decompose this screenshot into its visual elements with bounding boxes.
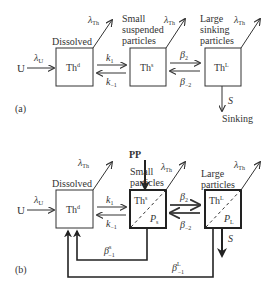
lambda-th-label: λTh [160,161,172,173]
th-d-symbol: Thd [66,62,80,73]
pl-symbol: PL [223,213,234,225]
k1-label: k1 [106,52,113,64]
k-1-label: k−1 [106,76,117,88]
beta-2-label: β−2 [179,219,191,231]
beta2-label: β2 [179,191,188,203]
uranium-label: U [17,62,25,74]
panel-b-label: (b) [15,264,27,276]
beta-l-1-label: βL−1 [171,261,184,275]
lambda-th-label: λTh [163,14,175,26]
th-d-symbol: Thd [66,204,80,215]
th-s-symbol: Ths [134,195,148,206]
sinking-symbol: S [228,95,233,106]
pp-label: PP [129,149,141,160]
ps-symbol: Ps [149,213,159,225]
beta2-label: β2 [179,49,188,61]
th-l-symbol: ThL [209,195,224,206]
lambda-th-label: λTh [233,14,245,26]
beta-l-1-feedback-arrow [68,228,213,277]
large-heading-line2: sinking [200,24,229,35]
small-heading-line3: particles [122,35,156,46]
large-heading-line1: Large [201,168,225,179]
lambda-u-label: λU [33,52,43,65]
small-heading-line1: Small [130,166,154,177]
decay-arrow-dissolved [93,162,112,190]
th-s-symbol: Ths [140,62,154,73]
lambda-th-label: λTh [233,159,245,171]
beta-s-1-label: βs−1 [103,244,115,258]
beta-2-label: β−2 [179,76,191,88]
large-heading-line2: particles [201,179,235,190]
small-heading-line2: particles [130,177,164,188]
panel-a: U λU Dissolved Thd λTh k1 k−1 Small susp… [15,13,260,124]
large-heading-line1: Large [200,13,224,24]
lambda-th-label: λTh [77,157,89,169]
small-heading-line2: suspended [122,24,164,35]
large-heading-line3: particles [200,35,234,46]
thorium-box-model-diagram: U λU Dissolved Thd λTh k1 k−1 Small susp… [0,0,273,298]
lambda-th-label: λTh [87,14,99,26]
panel-b: PP U λU Dissolved Thd λTh k1 k−1 Small p… [15,149,260,277]
dissolved-heading: Dissolved [52,36,92,47]
sinking-label: Sinking [222,113,253,124]
panel-a-label: (a) [15,103,26,115]
small-heading-line1: Small [122,13,146,24]
k1-label: k1 [106,194,113,206]
sinking-symbol: S [228,233,233,244]
th-l-symbol: ThL [214,62,229,73]
lambda-u-label: λU [33,194,43,207]
k-1-label: k−1 [106,218,117,230]
dissolved-heading: Dissolved [52,178,92,189]
uranium-label: U [17,204,25,216]
